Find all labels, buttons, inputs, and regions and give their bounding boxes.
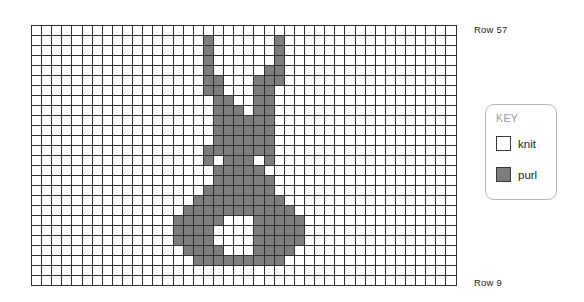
chart-cell-knit [426, 56, 436, 66]
chart-cell-knit [416, 26, 426, 36]
chart-cell-knit [122, 66, 132, 76]
chart-cell-purl [254, 236, 264, 246]
chart-cell-knit [284, 116, 294, 126]
chart-cell-knit [193, 276, 203, 286]
chart-row [32, 56, 457, 66]
chart-cell-knit [32, 96, 42, 106]
chart-cell-knit [92, 276, 102, 286]
chart-cell-knit [133, 156, 143, 166]
chart-cell-knit [72, 106, 82, 116]
chart-cell-knit [416, 36, 426, 46]
chart-cell-knit [32, 226, 42, 236]
chart-cell-knit [102, 206, 112, 216]
chart-cell-knit [112, 126, 122, 136]
chart-cell-purl [284, 226, 294, 236]
chart-cell-knit [365, 176, 375, 186]
chart-cell-knit [385, 126, 395, 136]
chart-cell-knit [244, 46, 254, 56]
chart-cell-knit [335, 266, 345, 276]
chart-cell-knit [234, 36, 244, 46]
chart-row [32, 236, 457, 246]
chart-cell-knit [355, 126, 365, 136]
chart-cell-purl [203, 46, 213, 56]
chart-cell-knit [72, 96, 82, 106]
chart-cell-knit [173, 246, 183, 256]
chart-cell-knit [446, 36, 456, 46]
chart-cell-purl [224, 176, 234, 186]
chart-row [32, 186, 457, 196]
chart-cell-knit [345, 156, 355, 166]
chart-cell-knit [143, 126, 153, 136]
chart-cell-knit [92, 66, 102, 76]
chart-cell-knit [365, 156, 375, 166]
chart-cell-knit [102, 196, 112, 206]
chart-cell-knit [102, 86, 112, 96]
chart-cell-knit [395, 256, 405, 266]
chart-cell-knit [42, 276, 52, 286]
chart-cell-knit [335, 196, 345, 206]
chart-cell-knit [122, 156, 132, 166]
chart-row [32, 176, 457, 186]
chart-cell-knit [133, 216, 143, 226]
chart-cell-knit [112, 226, 122, 236]
chart-cell-knit [436, 216, 446, 226]
chart-cell-knit [133, 276, 143, 286]
chart-cell-knit [72, 126, 82, 136]
chart-cell-knit [284, 136, 294, 146]
chart-cell-knit [82, 196, 92, 206]
chart-cell-knit [133, 266, 143, 276]
chart-cell-knit [375, 196, 385, 206]
chart-cell-knit [274, 136, 284, 146]
chart-cell-knit [203, 176, 213, 186]
chart-cell-knit [32, 176, 42, 186]
chart-cell-knit [62, 266, 72, 276]
chart-cell-knit [335, 106, 345, 116]
chart-cell-knit [224, 226, 234, 236]
chart-cell-purl [193, 256, 203, 266]
chart-cell-knit [173, 106, 183, 116]
chart-cell-knit [213, 26, 223, 36]
key-title: KEY [496, 112, 518, 124]
chart-cell-knit [102, 236, 112, 246]
chart-cell-knit [143, 176, 153, 186]
chart-cell-knit [82, 186, 92, 196]
chart-cell-knit [345, 76, 355, 86]
chart-cell-purl [224, 146, 234, 156]
chart-cell-knit [173, 156, 183, 166]
row-label-bottom: Row 9 [474, 277, 502, 288]
chart-cell-knit [294, 186, 304, 196]
chart-cell-knit [385, 176, 395, 186]
chart-cell-knit [365, 246, 375, 256]
chart-cell-knit [395, 76, 405, 86]
chart-cell-knit [122, 76, 132, 86]
chart-cell-knit [32, 206, 42, 216]
chart-cell-purl [213, 96, 223, 106]
chart-cell-knit [294, 146, 304, 156]
chart-cell-knit [395, 36, 405, 46]
chart-cell-knit [163, 116, 173, 126]
chart-cell-knit [325, 236, 335, 246]
chart-cell-knit [395, 226, 405, 236]
chart-cell-knit [72, 246, 82, 256]
chart-cell-knit [112, 156, 122, 166]
chart-cell-knit [315, 96, 325, 106]
chart-cell-purl [284, 246, 294, 256]
chart-cell-knit [153, 176, 163, 186]
chart-cell-purl [183, 236, 193, 246]
chart-cell-purl [183, 246, 193, 256]
chart-cell-knit [436, 46, 446, 56]
chart-cell-knit [365, 26, 375, 36]
chart-cell-knit [355, 246, 365, 256]
chart-cell-purl [254, 76, 264, 86]
chart-cell-knit [92, 246, 102, 256]
chart-cell-knit [345, 246, 355, 256]
chart-cell-knit [112, 166, 122, 176]
chart-cell-knit [385, 206, 395, 216]
chart-cell-knit [153, 126, 163, 136]
chart-cell-knit [244, 26, 254, 36]
chart-cell-knit [365, 216, 375, 226]
chart-cell-knit [112, 116, 122, 126]
chart-cell-knit [345, 116, 355, 126]
chart-cell-knit [315, 256, 325, 266]
chart-cell-knit [102, 226, 112, 236]
